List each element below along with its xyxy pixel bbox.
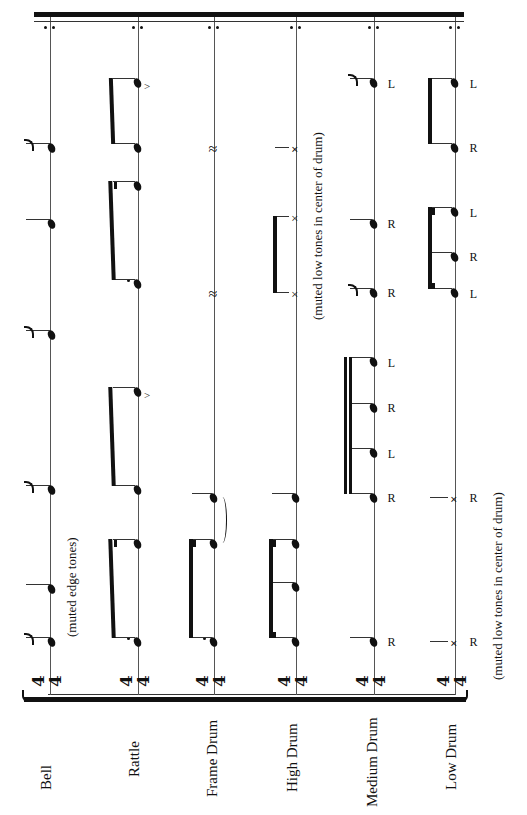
- high-drum-sixteenth-beam: [273, 632, 276, 638]
- sticking-label: R: [387, 635, 395, 650]
- low-drum-stem: [430, 143, 452, 144]
- medium-drum-stem: [350, 357, 372, 358]
- rattle-stem: [113, 485, 135, 486]
- bell-stem: [26, 584, 50, 585]
- repeat-dot: [290, 26, 293, 29]
- repeat-dot: [457, 26, 460, 29]
- system-start-barline: [48, 694, 456, 695]
- low-drum-sixteenth-beam: [432, 208, 435, 215]
- high-drum-stem: [275, 292, 289, 293]
- repeat-dot: [208, 26, 211, 29]
- rattle-sixteenth-beam: [114, 540, 117, 547]
- bell-annotation: (muted edge tones): [64, 537, 80, 637]
- frame-drum-beam: [189, 539, 193, 638]
- sticking-label: L: [388, 447, 395, 462]
- time-signature-bell: 44: [30, 675, 64, 687]
- repeat-dot: [368, 26, 371, 29]
- low-drum-sixteenth-beam: [432, 283, 435, 289]
- bell-stem: [26, 219, 50, 220]
- rattle-beam: [108, 539, 115, 638]
- staff-line-frame-drum: [214, 15, 215, 695]
- bell-flag-icon: [24, 633, 34, 645]
- frame-drum-stem: [192, 493, 212, 494]
- rattle-stem: [113, 279, 135, 280]
- frame-drum-sixteenth-beam: [193, 540, 196, 547]
- repeat-dot: [376, 26, 379, 29]
- instrument-label-low-drum: Low Drum: [443, 724, 460, 790]
- staff-line-high-drum: [296, 15, 297, 695]
- muted-x-note-icon: ×: [287, 215, 303, 222]
- time-signature-low-drum: 44: [435, 675, 469, 687]
- accent-icon: >: [144, 389, 150, 401]
- medium-drum-beam: [344, 357, 347, 494]
- low-drum-annotation: (muted low tones in center of drum): [490, 492, 506, 680]
- bell-flag-icon: [348, 74, 358, 86]
- rattle-beam: [108, 181, 115, 280]
- accent-icon: >: [144, 80, 150, 92]
- medium-drum-stem: [350, 219, 372, 220]
- high-drum-stem: [272, 582, 294, 583]
- rattle-stem: [113, 637, 135, 638]
- rattle-beam: [109, 78, 115, 144]
- high-drum-beam: [269, 539, 273, 638]
- sticking-label: R: [469, 635, 477, 650]
- instrument-label-bell: Bell: [38, 765, 55, 790]
- instrument-label-frame-drum: Frame Drum: [204, 720, 221, 797]
- sticking-label: R: [387, 217, 395, 232]
- bell-flag-icon: [24, 139, 34, 151]
- staff-line-low-drum: [455, 15, 456, 695]
- medium-drum-stem: [350, 403, 372, 404]
- low-drum-stem: [430, 641, 448, 642]
- high-drum-annotation: (muted low tones in center of drum): [310, 132, 326, 320]
- high-drum-stem: [272, 493, 294, 494]
- time-signature-medium-drum: 44: [354, 675, 388, 687]
- rattle-stem: [113, 143, 135, 144]
- instrument-label-medium-drum: Medium Drum: [364, 717, 381, 807]
- muted-x-note-icon: ×: [446, 640, 462, 647]
- end-repeat-thin-barline: [34, 21, 464, 22]
- drum-ensemble-score: Bell Rattle Frame Drum High Drum Medium …: [0, 0, 527, 815]
- bell-flag-icon: [348, 284, 358, 296]
- sticking-label: R: [387, 286, 395, 301]
- medium-drum-beam: [349, 357, 352, 494]
- muted-x-note-icon: ×: [287, 291, 303, 298]
- sticking-label: L: [388, 356, 395, 371]
- repeat-dot: [44, 26, 47, 29]
- muted-x-note-icon: ×: [287, 146, 303, 153]
- instrument-label-high-drum: High Drum: [284, 723, 301, 792]
- sticking-label: R: [469, 491, 477, 506]
- rattle-stem: [113, 78, 135, 79]
- sticking-label: R: [469, 141, 477, 156]
- tie-icon: [218, 497, 227, 543]
- system-brace: [24, 697, 466, 702]
- time-signature-high-drum: 44: [276, 675, 310, 687]
- sticking-label: L: [470, 287, 477, 302]
- time-signature-rattle: 44: [118, 675, 152, 687]
- time-signature-frame-drum: 44: [194, 675, 228, 687]
- muted-x-note-icon: ×: [446, 496, 462, 503]
- low-drum-beam: [428, 207, 432, 289]
- bell-flag-icon: [24, 481, 34, 493]
- repeat-dot: [132, 26, 135, 29]
- quarter-rest-icon: ≈: [209, 140, 218, 158]
- rattle-beam: [108, 387, 115, 486]
- rattle-stem: [113, 387, 135, 388]
- medium-drum-stem: [350, 493, 372, 494]
- sticking-label: L: [388, 77, 395, 92]
- brace-bottom-hook: [462, 690, 468, 702]
- repeat-dot: [52, 26, 55, 29]
- medium-drum-stem: [350, 448, 372, 449]
- sticking-label: R: [387, 491, 395, 506]
- repeat-dot: [216, 26, 219, 29]
- high-drum-stem: [275, 216, 289, 217]
- brace-top-hook: [22, 690, 28, 702]
- low-drum-beam: [428, 78, 432, 144]
- sticking-label: R: [469, 250, 477, 265]
- low-drum-stem: [430, 78, 452, 79]
- staff-line-medium-drum: [374, 15, 375, 695]
- low-drum-stem: [430, 252, 452, 253]
- repeat-dot: [140, 26, 143, 29]
- high-drum-stem: [275, 147, 289, 148]
- quarter-rest-icon: ≈: [209, 285, 218, 303]
- sticking-label: L: [470, 77, 477, 92]
